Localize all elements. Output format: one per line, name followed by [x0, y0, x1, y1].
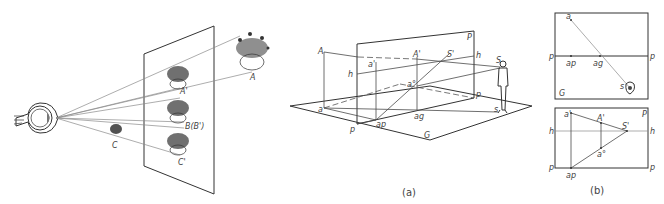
observer-figure: [498, 61, 508, 113]
label-b-a: a: [566, 12, 571, 21]
label-p-left: p: [349, 125, 355, 134]
flower-image-c: [167, 133, 189, 155]
left-figure: A A' B(B') C C': [14, 26, 270, 194]
label-s: s: [494, 105, 498, 114]
observer-top-icon: [626, 82, 635, 94]
label-G: G: [424, 131, 430, 140]
label-a: a: [318, 105, 323, 114]
label-object-b: B(B'): [185, 122, 204, 131]
figure-a: A a a' A' a° S' S s h h P p p G ap ag (a…: [290, 31, 532, 198]
label-a-double: a°: [407, 80, 416, 89]
label-b-p-right2: p: [649, 163, 655, 172]
label-image-c: C': [178, 158, 186, 167]
perspective-diagram: A A' B(B') C C' A a a': [0, 0, 664, 204]
label-A: A: [317, 47, 323, 56]
label-A-prime: A': [412, 50, 421, 59]
label-b-s: s: [620, 82, 624, 91]
flower-image-b: [167, 100, 189, 123]
flower-image-a: [167, 66, 189, 89]
label-p-right: p: [475, 90, 481, 99]
label-object-a: A: [249, 73, 255, 82]
caption-a: (a): [402, 187, 416, 198]
label-ap: ap: [376, 120, 386, 129]
flower-object-a: [236, 32, 270, 70]
label-b-h-left: h: [549, 127, 554, 136]
label-b-p-left2: p: [548, 163, 554, 172]
label-b-P: P: [642, 110, 647, 119]
label-b-ap: ap: [566, 59, 576, 68]
label-b-a-prime: a': [564, 110, 571, 119]
label-S-prime: S': [447, 50, 454, 59]
label-a-prime: a': [368, 60, 375, 69]
eye-icon: [14, 103, 58, 133]
label-b-S-prime: S': [622, 122, 629, 131]
label-b-a-double: a°: [597, 150, 606, 159]
label-b-p-right: p: [649, 52, 655, 61]
label-b-ap2: ap: [566, 171, 576, 180]
label-object-c: C: [112, 141, 118, 150]
label-ag: ag: [414, 112, 424, 121]
label-b-ag: ag: [593, 59, 603, 68]
label-image-a: A': [179, 87, 188, 96]
label-S: S: [496, 56, 501, 65]
label-h-left: h: [348, 70, 353, 79]
label-h-right: h: [476, 51, 481, 60]
label-b-h-right: h: [650, 127, 655, 136]
sight-lines: [56, 36, 252, 155]
label-P: P: [467, 33, 472, 42]
label-b-G: G: [559, 89, 565, 98]
label-b-p-left: p: [548, 52, 554, 61]
label-b-A-prime: A': [596, 114, 605, 123]
flower-object-c: [110, 124, 122, 134]
figure-b: a p p ap ag s G a' A' P h h S' a° p p ap…: [548, 12, 655, 196]
caption-b: (b): [590, 185, 604, 196]
